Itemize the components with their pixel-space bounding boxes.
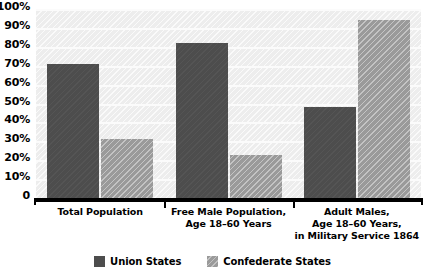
bar-confed-2 [358,20,410,198]
chart-title-cropped [0,0,425,5]
bar-union-0 [47,64,99,198]
x-axis-left-cap [34,198,36,205]
y-axis-tick-40: 40% [0,114,30,125]
category-label-1-line-0: Free Male Population, [164,206,292,218]
category-label-2-line-2: in Military Service 1864 [293,230,421,242]
category-label-2-line-1: Age 18–60 Years, [293,218,421,230]
y-axis-tick-80: 80% [0,39,30,50]
y-axis-tick-20: 20% [0,152,30,163]
x-axis-right-cap [421,198,423,205]
y-axis-tick-50: 50% [0,96,30,107]
confederate-swatch-icon [207,256,218,267]
y-axis-tick-10: 10% [0,171,30,182]
legend-item-union[interactable]: Union States [94,256,181,267]
y-axis-tick-0: 0 [0,190,30,201]
y-axis-tick-30: 30% [0,133,30,144]
category-label-1-line-1: Age 18–60 Years [164,218,292,230]
legend-label-union: Union States [110,256,181,267]
bar-confed-1 [230,155,282,198]
category-label-2: Adult Males,Age 18–60 Years,in Military … [293,206,421,242]
category-label-0: Total Population [36,206,164,218]
gridline-100 [36,9,421,11]
legend-label-confederate: Confederate States [223,256,331,267]
category-label-2-line-0: Adult Males, [293,206,421,218]
y-axis-tick-labels: 100%90%80%70%60%50%40%30%20%10%0 [0,6,32,201]
legend-item-confederate[interactable]: Confederate States [207,256,331,267]
y-axis-tick-90: 90% [0,20,30,31]
union-swatch-icon [94,256,105,267]
chart-legend: Union StatesConfederate States [0,252,425,270]
bar-union-2 [304,107,356,198]
bar-chart: 100%90%80%70%60%50%40%30%20%10%0 Total P… [0,0,425,276]
bar-confed-0 [101,139,153,198]
y-axis-tick-70: 70% [0,58,30,69]
bar-union-1 [176,43,228,198]
category-label-0-line-0: Total Population [36,206,164,218]
plot-area [36,9,421,198]
y-axis-tick-100: 100% [0,1,30,12]
category-label-1: Free Male Population,Age 18–60 Years [164,206,292,230]
x-axis-line [34,198,423,202]
y-axis-tick-60: 60% [0,77,30,88]
